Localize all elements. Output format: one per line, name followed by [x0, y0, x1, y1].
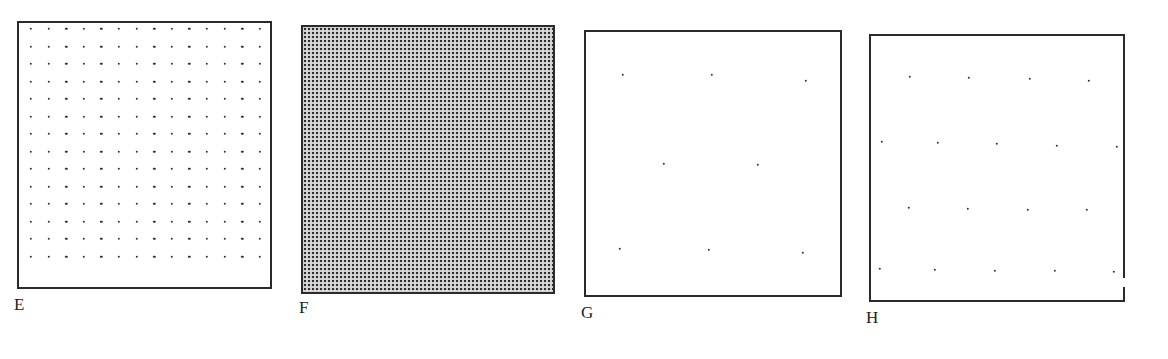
panel-g-sparse-dots	[584, 30, 842, 297]
panel-e-regular-dot-grid	[17, 21, 272, 289]
panel-f-dense-halftone	[301, 25, 555, 294]
panel-h-staggered-dots	[869, 34, 1125, 302]
panel-label-g: G	[581, 304, 593, 321]
panel-label-f: F	[299, 299, 308, 316]
panel-label-e: E	[14, 296, 24, 313]
panel-label-h: H	[866, 309, 878, 326]
border-gap	[1122, 278, 1126, 287]
